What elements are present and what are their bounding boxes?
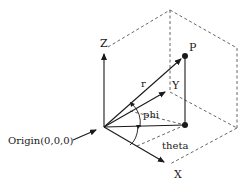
point-p-projection [182, 122, 188, 128]
x-axis [104, 127, 164, 162]
angle-arcs [130, 104, 140, 145]
theta-label: theta [162, 140, 188, 151]
x-axis-label: X [174, 168, 182, 181]
origin-label: Origin(0,0,0) [8, 135, 74, 146]
spherical-coordinate-diagram: Z P Y X r phi theta Origin(0,0,0) [0, 0, 247, 186]
y-axis-label: Y [171, 79, 180, 92]
phi-label: phi [143, 109, 159, 120]
radius-label: r [141, 78, 146, 89]
origin-pointer [73, 130, 96, 140]
z-axis-label: Z [100, 37, 108, 50]
point-p [182, 53, 188, 59]
projection-line [104, 125, 185, 127]
point-p-label: P [189, 41, 197, 54]
